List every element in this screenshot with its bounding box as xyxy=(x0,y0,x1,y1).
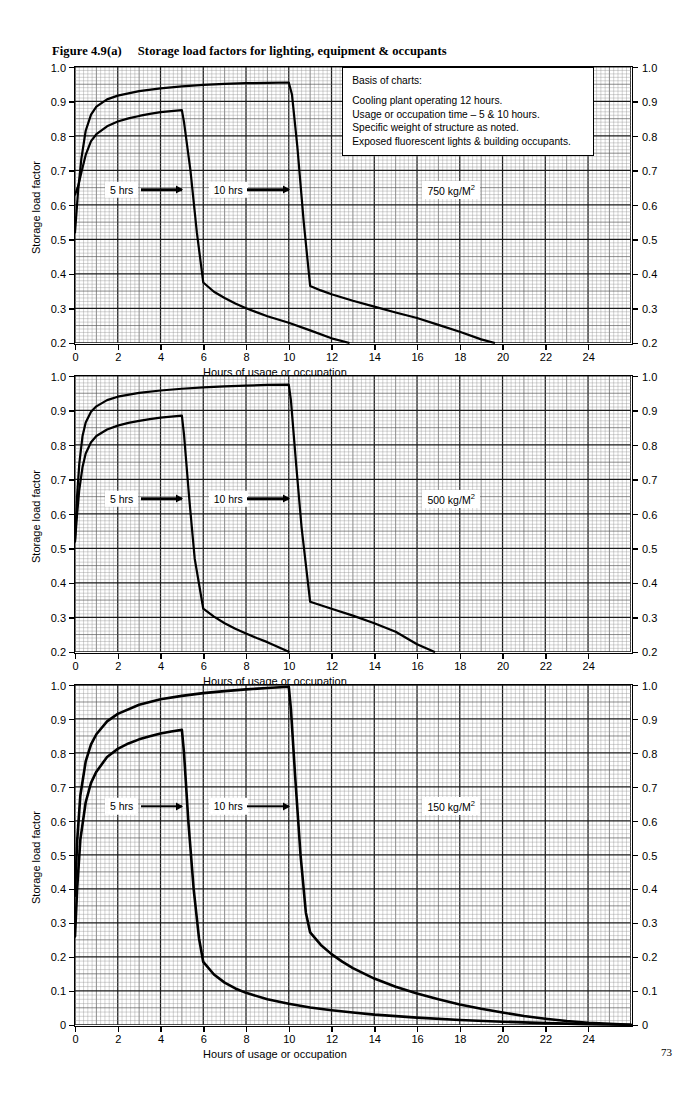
annotation-10-hrs: 10 hrs xyxy=(209,491,248,508)
plot-frame xyxy=(74,684,633,1027)
y-axis-label-right: 0 xyxy=(642,1019,648,1031)
x-tick xyxy=(118,344,120,350)
curve-5-hrs xyxy=(75,416,289,652)
x-tick xyxy=(289,344,291,350)
y-tick-left xyxy=(69,855,75,857)
legend-line: Specific weight of structure as noted. xyxy=(352,121,584,134)
y-tick-left xyxy=(69,410,75,412)
plot-area-1: 5 hrs10 hrs750 kg/M2Basis of charts:Cool… xyxy=(74,66,633,345)
x-axis-title: Hours of usage or occupation xyxy=(203,1048,347,1060)
grid-lines xyxy=(75,376,631,652)
y-axis-title: Storage load factor xyxy=(30,811,42,904)
x-axis-label: 10 xyxy=(283,660,295,672)
y-tick-right xyxy=(632,136,638,138)
y-axis-label-left: 0.9 xyxy=(51,714,66,726)
x-tick xyxy=(374,1026,376,1032)
x-tick xyxy=(160,653,162,659)
annotation-pointer xyxy=(247,802,290,811)
x-tick xyxy=(203,344,205,350)
y-axis-label-right: 0.2 xyxy=(642,337,657,349)
y-axis-label-right: 0.5 xyxy=(642,234,657,246)
y-tick-right xyxy=(632,583,638,585)
x-tick xyxy=(75,344,77,350)
x-axis-label: 14 xyxy=(369,351,381,363)
y-axis-label-left: 0.6 xyxy=(51,509,66,521)
x-axis-label: 2 xyxy=(115,660,121,672)
y-axis-label-right: 0.4 xyxy=(642,577,657,589)
y-tick-right xyxy=(632,855,638,857)
y-tick-left xyxy=(69,617,75,619)
x-tick xyxy=(588,1026,590,1032)
x-tick xyxy=(460,344,462,350)
y-tick-left xyxy=(69,101,75,103)
y-tick-right xyxy=(632,1025,638,1027)
x-axis-label: 20 xyxy=(497,351,509,363)
x-axis-label: 6 xyxy=(201,351,207,363)
y-tick-left xyxy=(69,787,75,789)
y-axis-label-right: 1.0 xyxy=(642,680,657,692)
x-tick xyxy=(502,653,504,659)
annotation-10-hrs: 10 hrs xyxy=(209,182,248,199)
chart-1: 0.20.20.30.30.40.40.50.50.60.60.70.70.80… xyxy=(0,0,696,1116)
x-tick xyxy=(417,344,419,350)
x-tick xyxy=(331,653,333,659)
x-axis-label: 6 xyxy=(201,1033,207,1045)
x-tick xyxy=(460,653,462,659)
y-tick-right xyxy=(632,685,638,687)
structure-weight-value: 750 kg/M xyxy=(427,184,470,196)
y-tick-left xyxy=(69,719,75,721)
x-axis-label: 20 xyxy=(497,1033,509,1045)
y-tick-right xyxy=(632,205,638,207)
y-tick-left xyxy=(69,239,75,241)
y-tick-right xyxy=(632,170,638,172)
x-axis-label: 4 xyxy=(158,1033,164,1045)
x-tick xyxy=(118,1026,120,1032)
y-axis-label-left: 0.6 xyxy=(51,200,66,212)
y-axis-label-left: 0.4 xyxy=(51,883,66,895)
x-tick xyxy=(75,653,77,659)
y-axis-label-left: 0.2 xyxy=(51,337,66,349)
y-tick-right xyxy=(632,889,638,891)
y-tick-left xyxy=(69,514,75,516)
y-axis-title: Storage load factor xyxy=(30,161,42,254)
x-tick xyxy=(460,1026,462,1032)
x-axis-label: 24 xyxy=(583,351,595,363)
structure-weight-label: 150 kg/M2 xyxy=(422,797,479,815)
x-axis-title: Hours of usage or occupation xyxy=(203,366,347,378)
page-number: 73 xyxy=(661,1046,672,1058)
annotation-10-hrs: 10 hrs xyxy=(209,798,248,815)
x-tick xyxy=(502,1026,504,1032)
y-axis-label-left: 0.9 xyxy=(51,405,66,417)
x-tick xyxy=(246,1026,248,1032)
y-tick-right xyxy=(632,787,638,789)
y-axis-label-left: 1.0 xyxy=(51,680,66,692)
y-axis-label-right: 0.7 xyxy=(642,165,657,177)
y-axis-label-right: 0.2 xyxy=(642,646,657,658)
annotation-5-hrs: 5 hrs xyxy=(105,798,138,815)
y-axis-label-right: 0.6 xyxy=(642,816,657,828)
plot-area-2: 5 hrs10 hrs500 kg/M2 xyxy=(74,375,633,654)
curve-5-hrs xyxy=(75,110,349,343)
x-axis-label: 2 xyxy=(115,1033,121,1045)
annotation-pointer xyxy=(141,185,183,194)
x-axis-label: 12 xyxy=(326,660,338,672)
x-tick xyxy=(246,653,248,659)
x-axis-label: 6 xyxy=(201,660,207,672)
y-axis-label-right: 0.3 xyxy=(642,917,657,929)
y-axis-label-left: 0.8 xyxy=(51,131,66,143)
annotation-pointer xyxy=(247,185,290,194)
x-axis-label: 20 xyxy=(497,660,509,672)
structure-weight-exponent: 2 xyxy=(471,183,475,192)
y-tick-right xyxy=(632,753,638,755)
data-curves xyxy=(75,685,631,1025)
y-tick-left xyxy=(69,343,75,345)
y-axis-label-left: 0.5 xyxy=(51,234,66,246)
figure-page: Figure 4.9(a)Storage load factors for li… xyxy=(0,0,696,1116)
x-tick xyxy=(331,344,333,350)
y-axis-label-left: 0.3 xyxy=(51,917,66,929)
y-tick-right xyxy=(632,514,638,516)
y-axis-label-right: 0.6 xyxy=(642,509,657,521)
y-tick-right xyxy=(632,67,638,69)
legend-line: Usage or occupation time – 5 & 10 hours. xyxy=(352,108,584,121)
y-axis-label-right: 0.9 xyxy=(642,714,657,726)
